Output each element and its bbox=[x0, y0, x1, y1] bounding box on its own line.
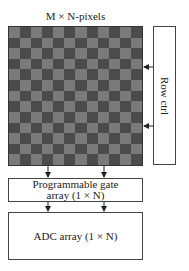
pixel-cell bbox=[87, 154, 98, 165]
pixel-cell bbox=[109, 144, 120, 155]
pixel-cell bbox=[109, 48, 120, 59]
pixel-cell bbox=[120, 154, 131, 165]
pixel-cell bbox=[120, 133, 131, 144]
pixel-cell bbox=[98, 59, 109, 70]
pixel-cell bbox=[9, 154, 20, 165]
pixel-cell bbox=[98, 38, 109, 49]
pixel-cell bbox=[87, 59, 98, 70]
pixel-cell bbox=[98, 91, 109, 102]
pixel-cell bbox=[31, 123, 42, 134]
pixel-cell bbox=[75, 91, 86, 102]
pixel-cell bbox=[31, 133, 42, 144]
pixel-cell bbox=[75, 144, 86, 155]
pixel-cell bbox=[120, 27, 131, 38]
pixel-cell bbox=[87, 133, 98, 144]
pixel-cell bbox=[64, 69, 75, 80]
pixel-cell bbox=[75, 48, 86, 59]
pixel-cell bbox=[53, 80, 64, 91]
row-ctrl-label: Row ctrl bbox=[159, 76, 171, 114]
pixel-cell bbox=[20, 80, 31, 91]
pixel-cell bbox=[75, 80, 86, 91]
pixel-cell bbox=[53, 154, 64, 165]
pixel-cell bbox=[53, 38, 64, 49]
pixel-cell bbox=[20, 133, 31, 144]
pixel-cell bbox=[9, 59, 20, 70]
pixel-cell bbox=[42, 80, 53, 91]
pixel-cell bbox=[31, 69, 42, 80]
pixel-cell bbox=[120, 101, 131, 112]
pixel-cell bbox=[42, 27, 53, 38]
pixel-cell bbox=[53, 91, 64, 102]
pixel-cell bbox=[98, 101, 109, 112]
pixel-cell bbox=[53, 112, 64, 123]
pixel-cell bbox=[42, 91, 53, 102]
pixel-cell bbox=[131, 154, 142, 165]
pixel-cell bbox=[9, 112, 20, 123]
pixel-cell bbox=[64, 133, 75, 144]
pixel-cell bbox=[109, 91, 120, 102]
pixel-cell bbox=[87, 91, 98, 102]
pixel-cell bbox=[53, 48, 64, 59]
pixel-cell bbox=[75, 154, 86, 165]
pixel-cell bbox=[131, 80, 142, 91]
pixel-cell bbox=[109, 154, 120, 165]
pixel-cell bbox=[75, 27, 86, 38]
pixel-cell bbox=[31, 80, 42, 91]
pixel-cell bbox=[9, 69, 20, 80]
pixel-cell bbox=[98, 48, 109, 59]
pixel-cell bbox=[109, 123, 120, 134]
pixel-cell bbox=[131, 133, 142, 144]
pixel-cell bbox=[109, 27, 120, 38]
pixel-cell bbox=[31, 91, 42, 102]
pixel-cell bbox=[87, 38, 98, 49]
pixel-cell bbox=[64, 123, 75, 134]
pixel-cell bbox=[20, 27, 31, 38]
pixel-cell bbox=[20, 69, 31, 80]
pixel-cell bbox=[98, 154, 109, 165]
pixel-cell bbox=[9, 123, 20, 134]
pixel-cell bbox=[131, 59, 142, 70]
pixel-cell bbox=[20, 144, 31, 155]
pixel-cell bbox=[64, 154, 75, 165]
pixel-cell bbox=[98, 133, 109, 144]
pixel-cell bbox=[64, 48, 75, 59]
pixel-cell bbox=[64, 91, 75, 102]
pixel-cell bbox=[31, 154, 42, 165]
pixel-cell bbox=[131, 38, 142, 49]
pixel-array bbox=[8, 26, 143, 166]
pixel-cell bbox=[31, 48, 42, 59]
pixel-cell bbox=[64, 59, 75, 70]
pixel-cell bbox=[75, 59, 86, 70]
pixel-cell bbox=[98, 123, 109, 134]
pixel-cell bbox=[31, 144, 42, 155]
pixel-cell bbox=[75, 123, 86, 134]
pixel-cell bbox=[109, 133, 120, 144]
pixel-cell bbox=[120, 91, 131, 102]
pixel-cell bbox=[131, 27, 142, 38]
pixel-cell bbox=[9, 80, 20, 91]
pixel-cell bbox=[31, 59, 42, 70]
pixel-cell bbox=[64, 38, 75, 49]
pixel-cell bbox=[87, 80, 98, 91]
pixel-cell bbox=[42, 144, 53, 155]
pixel-cell bbox=[87, 144, 98, 155]
programmable-gate-array-block: Programmable gate array (1 × N) bbox=[8, 178, 143, 202]
pixel-cell bbox=[20, 101, 31, 112]
pixel-cell bbox=[64, 80, 75, 91]
pixel-cell bbox=[87, 27, 98, 38]
pixel-cell bbox=[53, 101, 64, 112]
pixel-cell bbox=[98, 112, 109, 123]
pixel-cell bbox=[31, 27, 42, 38]
pixel-cell bbox=[120, 123, 131, 134]
pixel-cell bbox=[64, 27, 75, 38]
pixel-cell bbox=[20, 91, 31, 102]
pixel-cell bbox=[98, 69, 109, 80]
pixel-cell bbox=[20, 154, 31, 165]
pixel-cell bbox=[120, 59, 131, 70]
pixel-cell bbox=[75, 38, 86, 49]
pixel-cell bbox=[9, 38, 20, 49]
pixel-cell bbox=[9, 27, 20, 38]
pixel-cell bbox=[75, 133, 86, 144]
pixel-cell bbox=[87, 112, 98, 123]
pixel-cell bbox=[42, 154, 53, 165]
